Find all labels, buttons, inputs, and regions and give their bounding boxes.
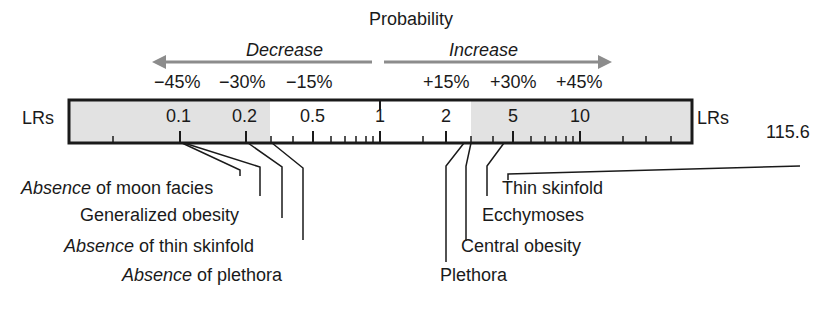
leader-central-obesity [466,143,471,241]
percent-label-plus15: +15% [423,72,470,92]
percent-label-plus45: +45% [556,72,603,92]
finding-emphasis: Absence [21,178,91,198]
leader-absence-thin-skinfold [248,143,282,218]
tick-label-10: 10 [570,106,590,126]
finding-text: Generalized obesity [80,205,239,225]
finding-text: of plethora [192,265,282,285]
percent-label-minus30: −30% [219,72,266,92]
decrease-label: Decrease [246,40,323,60]
finding-absence-moon-facies: Absence of moon facies [21,178,213,198]
finding-emphasis: Absence [122,265,192,285]
finding-text: of moon facies [91,178,213,198]
finding-text: of thin skinfold [134,236,254,256]
finding-thin-skinfold: Thin skinfold [502,178,603,198]
tick-label-1: 1 [375,106,385,126]
percent-label-plus30: +30% [490,72,537,92]
tick-label-0.2: 0.2 [232,106,257,126]
percent-label-minus15: −15% [286,72,333,92]
tick-label-5: 5 [508,106,518,126]
finding-absence-plethora: Absence of plethora [122,265,282,285]
lr-axis-label-left: LRs [22,108,54,128]
increase-label: Increase [449,40,518,60]
finding-central-obesity: Central obesity [461,236,581,256]
tick-label-0.5: 0.5 [300,106,325,126]
tick-label-0.1: 0.1 [166,106,191,126]
percent-label-minus45: −45% [154,72,201,92]
offscale-value-label: 115.6 [766,122,810,142]
finding-plethora: Plethora [440,265,507,285]
probability-title: Probability [369,9,453,29]
finding-generalized-obesity: Generalized obesity [80,205,239,225]
leader-absence-plethora [272,143,303,240]
finding-emphasis: Absence [64,236,134,256]
tick-label-2: 2 [441,106,451,126]
finding-absence-thin-skinfold: Absence of thin skinfold [64,236,254,256]
lr-axis-label-right: LRs [697,108,729,128]
leader-absence-moon-facies [182,143,240,176]
finding-ecchymoses: Ecchymoses [482,205,584,225]
